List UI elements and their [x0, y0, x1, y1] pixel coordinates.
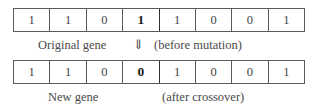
gene-cell: 1	[50, 61, 86, 83]
new-gene-label: New gene	[48, 86, 98, 108]
gene-cell: 1	[50, 9, 86, 31]
double-down-arrow-icon: ⇓	[133, 34, 144, 56]
gene-cell: 1	[160, 61, 196, 83]
gene-cell: 1	[14, 9, 50, 31]
gene-cell: 1	[160, 9, 196, 31]
original-gene-strip: 1 1 0 1 1 0 0 1	[13, 8, 305, 32]
after-crossover-note: (after crossover)	[162, 86, 244, 108]
gene-cell: 0	[196, 9, 232, 31]
gene-cell-mutated: 1	[123, 9, 159, 31]
new-gene-caption: New gene (after crossover)	[0, 86, 318, 108]
gene-cell-mutated: 0	[123, 61, 159, 83]
original-gene-caption: Original gene ⇓ (before mutation)	[0, 34, 318, 56]
gene-cell: 0	[196, 61, 232, 83]
gene-cell: 1	[269, 9, 304, 31]
gene-cell: 1	[14, 61, 50, 83]
gene-cell: 0	[87, 9, 123, 31]
gene-mutation-figure: 1 1 0 1 1 0 0 1 Original gene ⇓ (before …	[0, 0, 318, 111]
original-gene-label: Original gene	[38, 34, 106, 56]
gene-cell: 1	[269, 61, 304, 83]
gene-cell: 0	[232, 9, 268, 31]
before-mutation-note: (before mutation)	[154, 34, 242, 56]
new-gene-strip: 1 1 0 0 1 0 0 1	[13, 60, 305, 84]
gene-cell: 0	[87, 61, 123, 83]
gene-cell: 0	[232, 61, 268, 83]
